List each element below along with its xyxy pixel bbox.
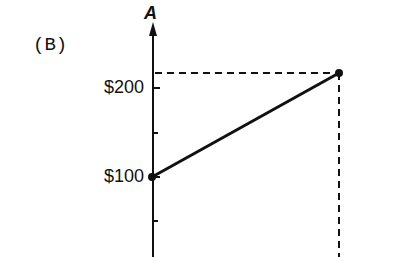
chart-plot — [0, 0, 416, 257]
chart-figure: (B) A $200 $100 — [0, 0, 416, 257]
data-point-start — [148, 173, 156, 181]
arrow-up-icon — [149, 22, 157, 36]
data-point-end — [335, 69, 343, 77]
series-line — [152, 73, 339, 177]
